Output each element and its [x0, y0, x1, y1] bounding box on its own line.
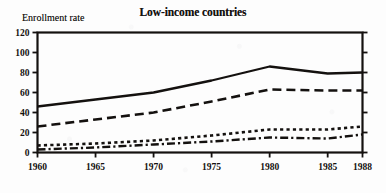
x-tick-label: 1988 [353, 162, 372, 172]
x-tick-label: 1965 [86, 162, 105, 172]
series-line-0 [38, 67, 363, 107]
plot-frame [38, 33, 363, 153]
plot-border [38, 33, 363, 153]
y-tick-label: 20 [20, 128, 30, 138]
y-tick-label: 80 [20, 68, 30, 78]
series-line-1 [38, 90, 363, 127]
line-chart-plot: 020406080100120 196019651970197519801985… [0, 0, 386, 193]
chart-figure: Low-income countries Enrollment rate 020… [0, 0, 386, 193]
y-tick-label: 0 [25, 148, 30, 158]
y-tick-label: 60 [20, 88, 30, 98]
y-axis-tick-labels: 020406080100120 [15, 28, 30, 158]
x-axis-tick-labels: 1960196519701975198019851988 [28, 162, 372, 172]
x-tick-label: 1980 [260, 162, 279, 172]
x-tick-label: 1975 [202, 162, 221, 172]
x-tick-label: 1970 [144, 162, 163, 172]
y-tick-label: 120 [15, 28, 30, 38]
x-tick-label: 1985 [318, 162, 337, 172]
y-tick-label: 40 [20, 108, 30, 118]
y-tick-label: 100 [15, 48, 30, 58]
data-series-layer [38, 67, 363, 150]
x-tick-label: 1960 [28, 162, 47, 172]
